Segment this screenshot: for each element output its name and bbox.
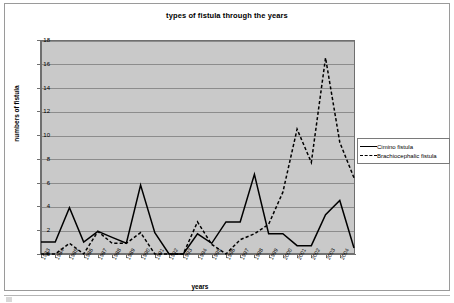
chart-page: types of fistula through the years numbe… <box>0 0 454 303</box>
legend-line-dashed-icon <box>360 152 377 159</box>
series-line-brachiocephalic <box>41 58 354 254</box>
legend-item-cimino: Cimino fistula <box>360 142 446 151</box>
x-axis-title: years <box>0 283 400 290</box>
y-axis-tick-label: 4 <box>20 203 50 209</box>
legend-label: Cimino fistula <box>377 144 413 150</box>
page-corner-mark <box>6 297 12 302</box>
chart-legend: Cimino fistula Brachiocephalic fistula <box>357 138 450 164</box>
y-axis-tick-label: 16 <box>20 61 50 67</box>
series-lines <box>41 40 355 254</box>
legend-line-solid-icon <box>360 143 377 150</box>
y-axis-tick-label: 12 <box>20 108 50 114</box>
y-axis-tick-label: 8 <box>20 156 50 162</box>
series-line-cimino <box>41 174 354 254</box>
plot-area-wrapper <box>41 40 355 254</box>
y-axis-tick-label: 14 <box>20 85 50 91</box>
legend-label: Brachiocephalic fistula <box>377 153 437 159</box>
legend-item-brachiocephalic: Brachiocephalic fistula <box>360 151 446 160</box>
y-axis-tick-label: 2 <box>20 227 50 233</box>
y-axis-title: numbers of fistula <box>13 54 20 174</box>
y-axis-tick-label: 10 <box>20 132 50 138</box>
y-axis-tick-label: 6 <box>20 180 50 186</box>
chart-title: types of fistula through the years <box>0 11 454 20</box>
y-axis-tick-label: 18 <box>20 37 50 43</box>
page-baseline-divider <box>4 295 450 296</box>
